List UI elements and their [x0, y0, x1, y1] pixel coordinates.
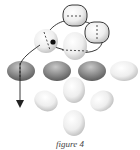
top-bead [63, 5, 87, 26]
left-lower-bead [31, 87, 61, 115]
bead-diagram [0, 0, 140, 150]
center-upper-bead [62, 32, 88, 60]
row-bead-3 [78, 61, 106, 81]
row-bead-2 [43, 61, 71, 81]
start-marker-dot [50, 39, 55, 44]
figure-caption: figure 4 [0, 139, 140, 149]
left-upper-bead [34, 29, 58, 53]
right-bead [85, 22, 109, 43]
row-bead-1 [7, 61, 35, 81]
center-lower-bead [63, 77, 85, 103]
bottom-bead [63, 110, 85, 136]
arrow-down-icon [16, 100, 24, 108]
right-lower-bead [87, 87, 117, 115]
row-bead-4 [110, 61, 138, 81]
